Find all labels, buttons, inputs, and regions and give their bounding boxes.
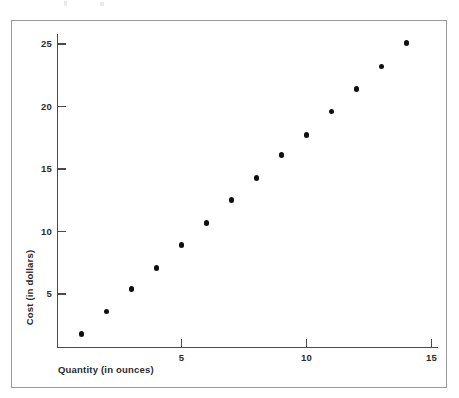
y-axis-tick-label: 25: [24, 38, 52, 49]
y-axis-tick: [58, 43, 66, 44]
data-point: [79, 331, 85, 337]
data-point: [104, 309, 110, 315]
x-axis-title: Quantity (in ounces): [58, 364, 154, 375]
x-axis-tick-label: 15: [420, 352, 444, 363]
scatter-plot: 510152025 51015 Cost (in dollars) Quanti…: [0, 0, 459, 398]
data-point: [329, 109, 335, 115]
data-point: [179, 242, 185, 248]
screenshot-root: 510152025 51015 Cost (in dollars) Quanti…: [0, 0, 459, 398]
data-point: [379, 64, 385, 70]
data-point: [154, 265, 160, 271]
y-axis-tick: [58, 231, 66, 232]
data-point: [229, 197, 235, 203]
data-point: [354, 86, 360, 92]
y-axis-tick-label: 15: [24, 163, 52, 174]
x-axis-tick: [181, 339, 182, 348]
x-axis-tick: [431, 339, 432, 348]
y-axis-line: [57, 34, 58, 348]
y-axis-tick-label: 20: [24, 101, 52, 112]
data-point: [279, 152, 285, 158]
x-axis-tick-label: 5: [170, 352, 194, 363]
data-point: [254, 175, 260, 181]
data-point: [129, 286, 135, 292]
x-axis-tick-label: 10: [295, 352, 319, 363]
data-point: [304, 132, 310, 138]
y-axis-title: Cost (in dollars): [24, 233, 35, 343]
x-axis-line: [57, 347, 438, 348]
y-axis-tick: [58, 293, 66, 294]
x-axis-tick: [306, 339, 307, 348]
data-point: [404, 40, 410, 46]
data-point: [204, 220, 210, 226]
y-axis-tick: [58, 106, 66, 107]
y-axis-tick: [58, 168, 66, 169]
